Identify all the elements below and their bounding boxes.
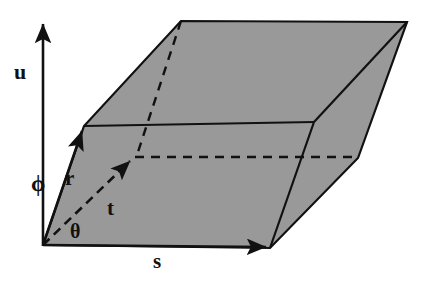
s-axis-label: s (153, 251, 161, 272)
r-vector-label: r (65, 168, 74, 189)
solid-body-fill (43, 21, 407, 248)
theta-angle-label: θ (70, 221, 80, 241)
phi-angle-label: ϕ (31, 172, 45, 195)
u-axis-label: u (14, 61, 26, 83)
t-vector-label: t (107, 198, 114, 219)
diagram-canvas (0, 0, 423, 287)
figure-container: u ϕ r t θ s (0, 0, 423, 287)
